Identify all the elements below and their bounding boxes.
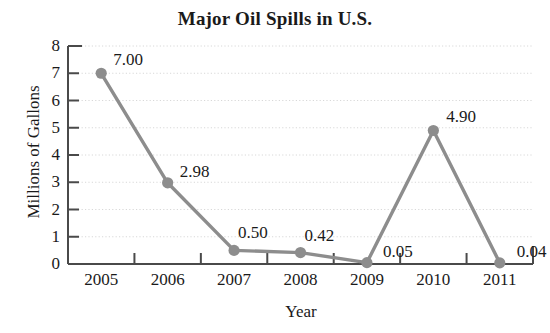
- y-tick-label: 1: [34, 228, 60, 245]
- x-tick-label: 2010: [398, 271, 468, 288]
- data-point-label: 0.50: [238, 224, 268, 241]
- data-point-label: 0.42: [305, 227, 335, 244]
- y-tick-marks: [68, 73, 79, 237]
- chart-container: Major Oil Spills in U.S. Millions of Gal…: [0, 0, 550, 333]
- data-point-label: 0.05: [383, 243, 413, 260]
- x-tick-label: 2007: [199, 271, 269, 288]
- data-line: [101, 73, 500, 263]
- gridlines: [68, 46, 533, 237]
- x-tick-label: 2006: [133, 271, 203, 288]
- data-point-label: 4.90: [446, 108, 476, 125]
- data-point-label: 0.04: [517, 243, 547, 260]
- y-tick-label: 7: [34, 64, 60, 81]
- y-tick-label: 4: [34, 146, 60, 163]
- x-tick-label: 2009: [332, 271, 402, 288]
- y-tick-label: 3: [34, 173, 60, 190]
- data-point-label: 7.00: [113, 51, 143, 68]
- y-tick-label: 5: [34, 119, 60, 136]
- x-tick-label: 2005: [66, 271, 136, 288]
- y-tick-label: 8: [34, 37, 60, 54]
- x-tick-label: 2008: [266, 271, 336, 288]
- y-tick-label: 6: [34, 92, 60, 109]
- y-tick-label: 2: [34, 201, 60, 218]
- data-point-label: 2.98: [180, 163, 210, 180]
- x-tick-label: 2011: [465, 271, 535, 288]
- y-tick-label: 0: [34, 255, 60, 272]
